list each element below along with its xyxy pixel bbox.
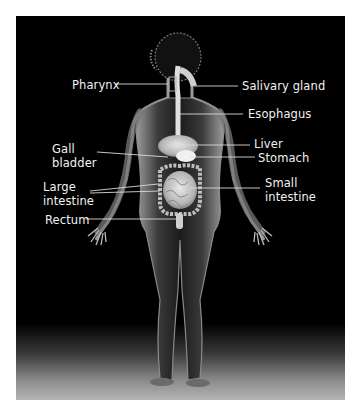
left-foot bbox=[150, 378, 174, 386]
label-large-intestine-line2: intestine bbox=[43, 194, 94, 208]
label-large-intestine: Large intestine bbox=[43, 180, 94, 208]
right-foot bbox=[186, 379, 210, 387]
small-intestine-organ bbox=[163, 171, 197, 209]
label-esophagus: Esophagus bbox=[248, 107, 311, 121]
label-pharynx: Pharynx bbox=[72, 78, 120, 92]
stomach-organ bbox=[176, 150, 196, 162]
label-gall-bladder-line2: bladder bbox=[52, 156, 97, 170]
label-liver: Liver bbox=[254, 137, 283, 151]
label-large-intestine-line1: Large bbox=[43, 180, 94, 194]
left-arm bbox=[98, 112, 140, 232]
human-body-figure bbox=[16, 16, 345, 400]
rectum-organ bbox=[176, 213, 183, 229]
label-gall-bladder: Gall bladder bbox=[52, 142, 97, 170]
label-rectum: Rectum bbox=[45, 213, 89, 227]
label-gall-bladder-line1: Gall bbox=[52, 142, 97, 156]
label-salivary-gland: Salivary gland bbox=[242, 79, 325, 93]
label-small-intestine: Small intestine bbox=[265, 176, 316, 204]
right-arm bbox=[220, 112, 262, 232]
label-small-intestine-line1: Small bbox=[265, 176, 316, 190]
label-small-intestine-line2: intestine bbox=[265, 190, 316, 204]
label-stomach: Stomach bbox=[258, 151, 309, 165]
diagram-panel: Pharynx Salivary gland Esophagus Liver S… bbox=[16, 16, 345, 400]
esophagus-organ bbox=[177, 66, 178, 140]
